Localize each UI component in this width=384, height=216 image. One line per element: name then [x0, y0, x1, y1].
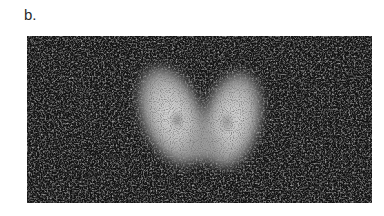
panel-label: b. [24, 6, 37, 24]
foreground-speckle [27, 36, 372, 203]
thyroid-scan-image [27, 36, 372, 203]
scan-graphic [27, 36, 372, 203]
figure-panel: b. [0, 0, 384, 216]
